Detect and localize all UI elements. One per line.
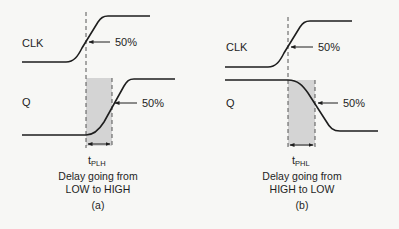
q-50-percent-a: 50% xyxy=(142,97,164,109)
q-label-a: Q xyxy=(22,96,31,108)
panel-a: CLK Q 50% 50% tPLH Delay going from LOW … xyxy=(22,12,175,211)
delay-shading-b xyxy=(288,80,315,146)
q-50-percent-b: 50% xyxy=(343,97,365,109)
panel-tag-b: (b) xyxy=(296,199,309,211)
delay-shading-a xyxy=(86,78,112,146)
caption-line1-b: Delay going from xyxy=(262,170,342,182)
propagation-delay-diagram: CLK Q 50% 50% tPLH Delay going from LOW … xyxy=(0,0,399,229)
q-label-b: Q xyxy=(226,97,235,109)
clk-label-b: CLK xyxy=(226,41,248,53)
clk-50-percent-b: 50% xyxy=(318,41,340,53)
delay-label-tphl: tPHL xyxy=(292,154,310,168)
clk-label-a: CLK xyxy=(22,37,44,49)
delay-label-tplh: tPLH xyxy=(88,154,106,168)
panel-tag-a: (a) xyxy=(92,199,105,211)
caption-line1-a: Delay going from xyxy=(58,170,138,182)
caption-line2-b: HIGH to LOW xyxy=(270,183,335,195)
caption-line2-a: LOW to HIGH xyxy=(66,183,131,195)
panel-b: CLK Q 50% 50% tPHL Delay going from HIGH… xyxy=(225,17,378,211)
clk-50-percent-a: 50% xyxy=(115,36,137,48)
